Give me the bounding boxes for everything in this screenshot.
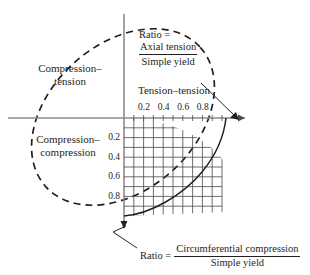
y-tick-label-1: 0.4	[100, 152, 120, 162]
annotation-circumferential-ratio-numerator: Circumferential compression	[174, 243, 300, 257]
y-tick-label-2: 0.6	[100, 171, 120, 181]
x-tick-label-1: 0.4	[154, 102, 174, 112]
annotation-axial-ratio-denominator: Simple yield	[139, 55, 197, 68]
annotation-circumferential-compression-ratio: Ratio = Circumferential compression Simp…	[140, 243, 300, 270]
region-label-compression-tension-line1: Compression–	[38, 62, 102, 74]
annotation-circumferential-ratio-fraction: Circumferential compression Simple yield	[174, 243, 300, 270]
annotation-circumferential-ratio-prefix: Ratio =	[140, 250, 174, 262]
region-label-tension-tension: Tension–tension	[138, 84, 210, 97]
x-tick-label-0: 0.2	[134, 102, 154, 112]
region-label-compression-tension-line2: tension	[54, 75, 86, 87]
x-tick-label-2: 0.6	[173, 102, 193, 112]
annotation-axial-ratio-fraction: Axial tension Simple yield	[139, 41, 197, 68]
annotation-circumferential-ratio-denominator: Simple yield	[174, 257, 300, 270]
region-label-compression-tension: Compression– tension	[28, 62, 112, 88]
x-tick-label-3: 0.8	[193, 102, 213, 112]
y-tick-label-3: 0.8	[100, 191, 120, 201]
region-label-compression-compression-line2: compression	[40, 146, 96, 158]
y-tick-label-0: 0.2	[100, 132, 120, 142]
leader-line-circumferential-ratio	[113, 226, 137, 248]
region-label-compression-compression-line1: Compression–	[36, 133, 100, 145]
yield-ellipse-diagram: Compression– tension Compression– compre…	[0, 0, 310, 275]
annotation-axial-tension-ratio: Ratio = Axial tension Simple yield	[139, 29, 197, 68]
region-label-compression-compression: Compression– compression	[24, 133, 112, 159]
annotation-axial-ratio-prefix: Ratio =	[139, 29, 197, 41]
quadrant-grid	[124, 118, 222, 216]
annotation-axial-ratio-numerator: Axial tension	[139, 41, 197, 55]
